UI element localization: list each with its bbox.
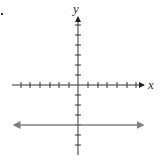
y-axis: [75, 17, 81, 155]
x-axis-label: x: [147, 77, 154, 92]
coordinate-plane: y x: [0, 0, 160, 163]
dot-mark: [1, 13, 3, 15]
y-axis-label: y: [71, 1, 79, 16]
